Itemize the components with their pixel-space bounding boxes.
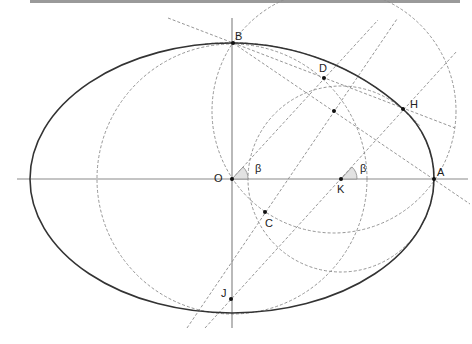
diagram-canvas: O A B D H K C J β β — [0, 0, 472, 344]
angle-mark-k — [341, 167, 357, 179]
label-d: D — [319, 62, 327, 74]
label-o: O — [214, 172, 223, 184]
angle-mark-o — [232, 167, 248, 179]
circle-center-m — [212, 0, 456, 233]
point-j — [229, 297, 233, 301]
point-h — [401, 107, 405, 111]
label-beta-k: β — [360, 162, 366, 174]
point-a — [432, 177, 436, 181]
arc-center-j — [205, 43, 420, 126]
label-j: J — [221, 287, 227, 299]
label-h: H — [410, 98, 418, 110]
label-a: A — [437, 166, 445, 178]
label-k: K — [337, 183, 345, 195]
label-c: C — [265, 217, 273, 229]
point-c — [263, 210, 267, 214]
construction-lines — [97, 0, 470, 328]
label-b: B — [235, 30, 242, 42]
label-beta-o: β — [255, 162, 261, 174]
point-o — [230, 177, 234, 181]
point-k — [339, 177, 343, 181]
line-jkh — [205, 51, 457, 328]
point-d — [322, 76, 326, 80]
line-bh — [168, 18, 455, 128]
point-m — [332, 109, 336, 113]
